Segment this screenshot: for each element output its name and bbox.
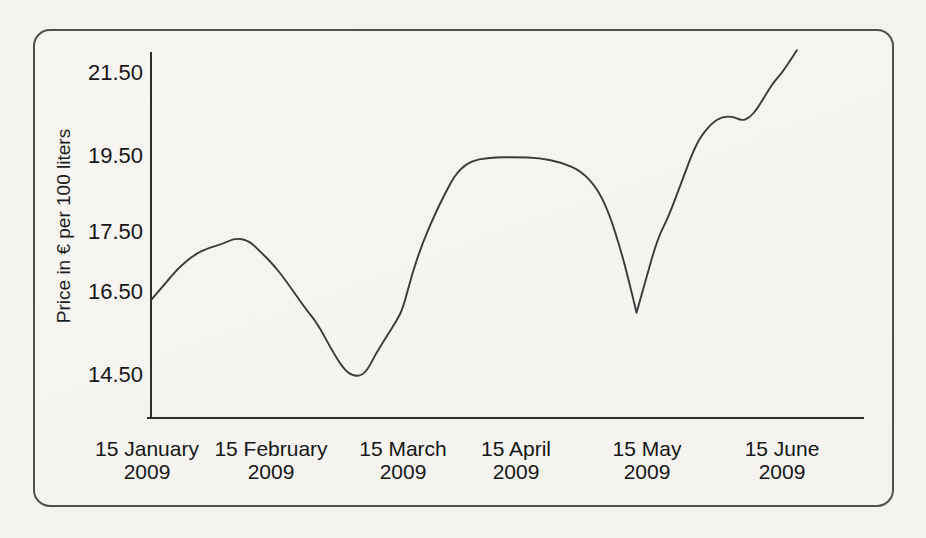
y-tick-label: 19.50 (69, 143, 143, 169)
x-tick-date: 15 February (214, 437, 327, 460)
x-tick-date: 15 May (613, 437, 682, 460)
y-tick-label: 21.50 (69, 60, 143, 86)
y-tick-label: 16.50 (69, 279, 143, 305)
y-tick-label: 17.50 (69, 219, 143, 245)
axes-lines (147, 52, 864, 418)
y-tick-label: 14.50 (69, 362, 143, 388)
x-tick-label: 15 June2009 (702, 437, 862, 483)
x-tick-date: 15 March (359, 437, 447, 460)
x-tick-date: 15 January (95, 437, 199, 460)
x-tick-year: 2009 (702, 460, 862, 483)
x-tick-date: 15 June (745, 437, 820, 460)
x-tick-date: 15 April (481, 437, 551, 460)
scanned-page: Price in € per 100 liters 21.5019.5017.5… (0, 0, 926, 538)
price-line-series (151, 50, 797, 376)
